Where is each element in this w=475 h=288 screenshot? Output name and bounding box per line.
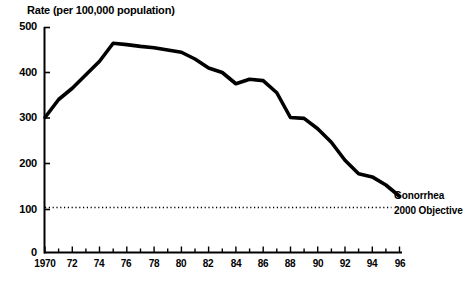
gonorrhea-rate-chart: Rate (per 100,000 population) 500 400 30… — [0, 0, 475, 288]
series-line-gonorrhea — [45, 43, 400, 196]
chart-plot-area — [0, 0, 475, 288]
x-axis-ticks — [45, 247, 400, 253]
